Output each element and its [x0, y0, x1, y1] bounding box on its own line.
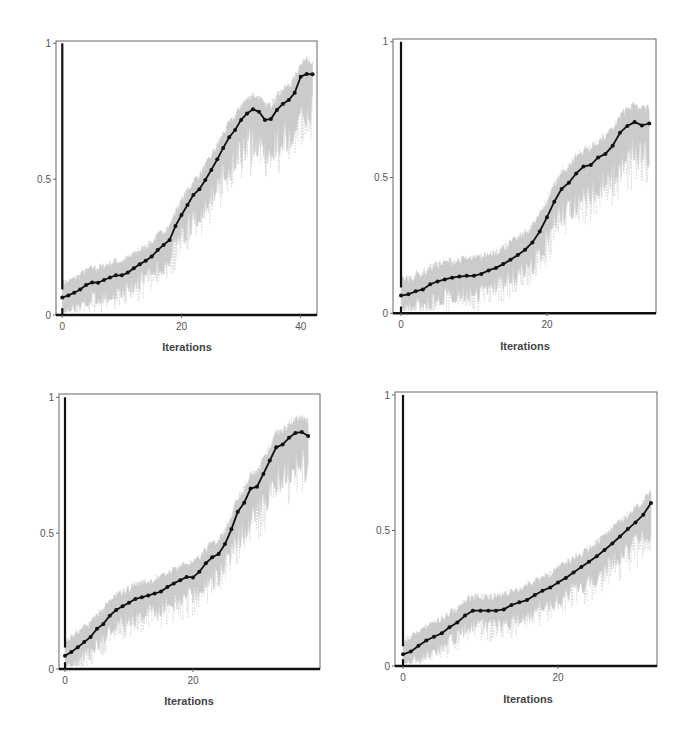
data-point	[95, 627, 99, 631]
x-axis-title: Iterations	[164, 695, 214, 707]
data-point	[501, 262, 505, 266]
y-tick-label: 1	[384, 390, 390, 401]
data-point	[548, 585, 552, 589]
data-point	[463, 614, 467, 618]
data-point	[249, 487, 253, 491]
data-point	[618, 535, 622, 539]
data-point	[274, 445, 278, 449]
data-point	[589, 163, 593, 167]
data-point	[311, 72, 315, 76]
data-point	[197, 570, 201, 574]
data-point	[204, 561, 208, 565]
data-point	[251, 107, 255, 111]
data-point	[611, 144, 615, 148]
chart-grid: 00.5102040Iterations 00.51020Iterations …	[0, 0, 693, 735]
data-point	[448, 625, 452, 629]
data-point	[509, 258, 513, 262]
data-point	[197, 187, 201, 191]
data-point	[217, 552, 221, 556]
data-point	[564, 576, 568, 580]
data-point	[587, 560, 591, 564]
data-point	[595, 554, 599, 558]
data-point	[647, 122, 651, 126]
data-point	[281, 443, 285, 447]
data-point	[96, 281, 100, 285]
data-point	[603, 548, 607, 552]
data-point	[121, 604, 125, 608]
data-point	[146, 593, 150, 597]
data-point	[633, 120, 637, 124]
x-tick-label: 40	[295, 321, 307, 332]
data-point	[127, 601, 131, 605]
data-point	[510, 603, 514, 607]
data-point	[203, 178, 207, 182]
data-point	[84, 283, 88, 287]
data-point	[287, 98, 291, 102]
data-point	[538, 230, 542, 234]
data-point	[168, 238, 172, 242]
data-point	[101, 622, 105, 626]
data-point	[138, 262, 142, 266]
data-point	[414, 289, 418, 293]
data-point	[153, 592, 157, 596]
y-tick-label: 0.5	[40, 528, 54, 539]
panel-bottom-right: 00.51020Iterations	[376, 390, 657, 706]
data-point	[560, 187, 564, 191]
data-point	[618, 131, 622, 135]
data-point	[156, 248, 160, 252]
data-point	[556, 581, 560, 585]
x-tick-label: 0	[400, 672, 406, 683]
data-point	[545, 215, 549, 219]
data-point	[517, 600, 521, 604]
data-point	[424, 639, 428, 643]
data-point	[63, 654, 67, 658]
data-point	[159, 590, 163, 594]
data-point	[257, 110, 261, 114]
y-tick-label: 1	[48, 392, 54, 403]
data-point	[133, 597, 137, 601]
panel-top-left: 00.5102040Iterations	[37, 38, 317, 353]
y-tick-label: 1	[382, 36, 388, 47]
data-point	[574, 171, 578, 175]
data-point	[140, 595, 144, 599]
data-point	[305, 72, 309, 76]
data-point	[610, 542, 614, 546]
data-point	[209, 168, 213, 172]
data-point	[523, 248, 527, 252]
data-point	[236, 510, 240, 514]
data-point	[287, 436, 291, 440]
x-axis-title: Iterations	[500, 340, 550, 352]
data-point	[60, 296, 64, 300]
data-point	[649, 501, 653, 505]
data-point	[293, 91, 297, 95]
data-point	[82, 640, 86, 644]
x-tick-label: 0	[398, 319, 404, 330]
data-point	[275, 108, 279, 112]
data-point	[494, 266, 498, 270]
data-point	[479, 609, 483, 613]
data-point	[89, 635, 93, 639]
data-point	[525, 598, 529, 602]
data-point	[223, 542, 227, 546]
data-point	[144, 259, 148, 263]
data-point	[76, 645, 80, 649]
data-point	[399, 294, 403, 298]
x-tick-label: 20	[552, 672, 564, 683]
data-point	[432, 635, 436, 639]
panel-bottom-left: 00.51020Iterations	[40, 392, 320, 707]
data-point	[465, 274, 469, 278]
data-point	[191, 575, 195, 579]
data-point	[185, 575, 189, 579]
data-point	[443, 277, 447, 281]
data-point	[494, 609, 498, 613]
data-point	[126, 271, 130, 275]
data-point	[406, 292, 410, 296]
y-tick-label: 1	[45, 38, 51, 49]
data-point	[269, 117, 273, 121]
data-point	[180, 213, 184, 217]
data-point	[102, 278, 106, 282]
data-point	[567, 181, 571, 185]
data-point	[281, 102, 285, 106]
data-point	[114, 608, 118, 612]
data-point	[263, 118, 267, 122]
